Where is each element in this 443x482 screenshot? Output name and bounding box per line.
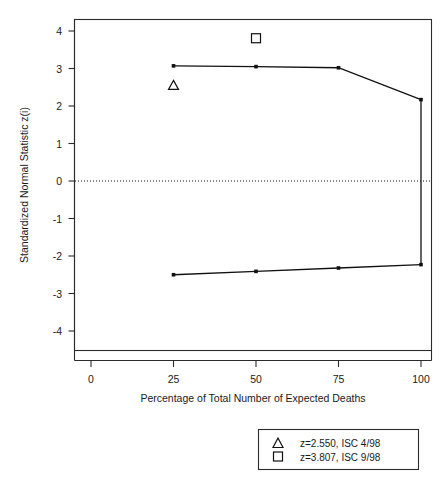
data-point <box>337 66 341 70</box>
y-tick-label-3: 3 <box>56 63 62 75</box>
legend-box <box>259 430 419 470</box>
data-point <box>172 273 176 277</box>
y-tick-label-minus3: -3 <box>53 288 62 300</box>
data-point <box>254 65 258 69</box>
x-tick-label-0: 0 <box>88 373 94 385</box>
y-tick-label-1: 1 <box>56 138 62 150</box>
legend-label-row0: z=2.550, ISC 4/98 <box>300 438 381 449</box>
data-point <box>254 270 258 274</box>
x-tick-label-50: 50 <box>250 373 262 385</box>
x-tick-label-25: 25 <box>168 373 180 385</box>
y-axis-title: Standardized Normal Statistic z(i) <box>18 107 30 263</box>
x-tick-label-100: 100 <box>412 373 430 385</box>
x-axis-title: Percentage of Total Number of Expected D… <box>140 392 365 404</box>
x-tick-label-75: 75 <box>333 373 345 385</box>
y-tick-label-2: 2 <box>56 100 62 112</box>
legend-label-row1: z=3.807, ISC 9/98 <box>300 452 381 463</box>
square-marker-icon <box>274 452 283 461</box>
y-tick-label-0: 0 <box>56 175 62 187</box>
statistical-chart-figure: 4 3 2 1 0 -1 -2 -3 -4 0 25 50 75 100 Sta <box>0 0 443 482</box>
figure-background <box>0 0 443 482</box>
annotation-square-marker <box>252 34 261 43</box>
chart-legend: z=2.550, ISC 4/98 z=3.807, ISC 9/98 <box>259 430 419 470</box>
data-point <box>172 64 176 68</box>
chart-canvas: 4 3 2 1 0 -1 -2 -3 -4 0 25 50 75 100 Sta <box>0 0 443 482</box>
y-tick-label-4: 4 <box>56 25 62 37</box>
data-point <box>337 266 341 270</box>
y-tick-label-minus1: -1 <box>53 213 62 225</box>
y-tick-label-minus4: -4 <box>53 325 62 337</box>
y-tick-label-minus2: -2 <box>53 250 62 262</box>
